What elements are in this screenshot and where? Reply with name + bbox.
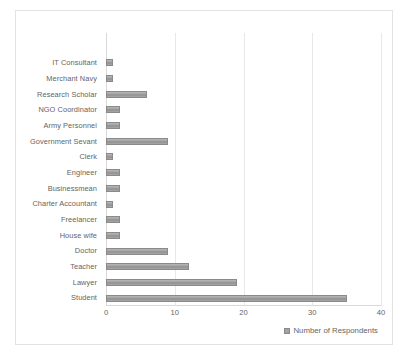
chart-frame: IT ConsultantMerchant NavyResearch Schol… — [15, 10, 393, 345]
bar[interactable] — [106, 232, 120, 239]
bar-row — [106, 290, 381, 306]
x-axis-tick-label: 20 — [239, 308, 247, 317]
bar-row — [106, 243, 381, 259]
bar-row — [106, 196, 381, 212]
category-label: Army Personnel — [22, 118, 100, 134]
category-label: Doctor — [22, 243, 100, 259]
bar-row — [106, 86, 381, 102]
x-axis-tick-label: 40 — [377, 308, 385, 317]
category-label: Student — [22, 290, 100, 306]
bar[interactable] — [106, 122, 120, 129]
category-axis: IT ConsultantMerchant NavyResearch Schol… — [22, 55, 100, 306]
category-label: IT Consultant — [22, 55, 100, 71]
gridline — [381, 33, 382, 306]
category-label: Research Scholar — [22, 86, 100, 102]
x-axis-tick-label: 0 — [104, 308, 108, 317]
bar-row — [106, 165, 381, 181]
plot-area — [106, 33, 381, 306]
bar[interactable] — [106, 263, 189, 270]
bar[interactable] — [106, 59, 113, 66]
bar[interactable] — [106, 248, 168, 255]
category-label: NGO Coordinator — [22, 102, 100, 118]
bar[interactable] — [106, 75, 113, 82]
chart-plot-wrapper: IT ConsultantMerchant NavyResearch Schol… — [16, 11, 392, 344]
category-label: Lawyer — [22, 275, 100, 291]
bar-row — [106, 228, 381, 244]
category-label: Charter Accountant — [22, 196, 100, 212]
bar[interactable] — [106, 138, 168, 145]
bar[interactable] — [106, 216, 120, 223]
category-label: Teacher — [22, 259, 100, 275]
bar[interactable] — [106, 106, 120, 113]
bars-container — [106, 55, 381, 306]
bar-row — [106, 275, 381, 291]
bar-row — [106, 212, 381, 228]
bar[interactable] — [106, 279, 237, 286]
bar-row — [106, 55, 381, 71]
category-label: Merchant Navy — [22, 71, 100, 87]
category-label: Businessmean — [22, 181, 100, 197]
bar[interactable] — [106, 295, 347, 302]
bar[interactable] — [106, 153, 113, 160]
bar-row — [106, 181, 381, 197]
bar-row — [106, 71, 381, 87]
bar[interactable] — [106, 91, 147, 98]
legend-label: Number of Respondents — [293, 326, 378, 335]
x-axis-tick-label: 30 — [308, 308, 316, 317]
chart-legend: Number of Respondents — [284, 326, 378, 335]
category-label: House wife — [22, 228, 100, 244]
category-label: Freelancer — [22, 212, 100, 228]
bar[interactable] — [106, 201, 113, 208]
bar[interactable] — [106, 169, 120, 176]
category-label: Engineer — [22, 165, 100, 181]
bar[interactable] — [106, 185, 120, 192]
bar-row — [106, 133, 381, 149]
x-axis-tick-label: 10 — [171, 308, 179, 317]
bar-row — [106, 102, 381, 118]
bar-row — [106, 118, 381, 134]
value-axis: 010203040 — [106, 308, 381, 322]
bar-row — [106, 149, 381, 165]
category-label: Government Sevant — [22, 133, 100, 149]
legend-square-icon — [284, 328, 290, 334]
category-label: Clerk — [22, 149, 100, 165]
bar-row — [106, 259, 381, 275]
